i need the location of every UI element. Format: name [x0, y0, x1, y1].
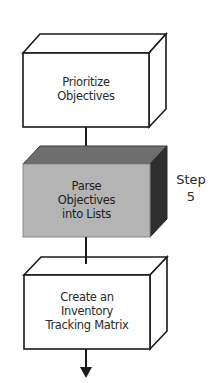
box-label-line: Objectives [23, 89, 149, 103]
box-label-prioritize-objectives: Prioritize Objectives [23, 75, 149, 103]
box-label-line: Inventory [18, 304, 156, 318]
arrow-down-icon [80, 349, 92, 378]
box-label-line: Create an [18, 290, 156, 304]
box-label-line: Tracking Matrix [18, 318, 156, 332]
box-label-line: into Lists [23, 207, 150, 221]
step-indicator: Step 5 [172, 171, 210, 205]
box-label-inventory-tracking-matrix: Create an Inventory Tracking Matrix [18, 290, 156, 332]
box-label-line: Objectives [23, 193, 150, 207]
box-label-parse-objectives: Parse Objectives into Lists [23, 179, 150, 221]
box-label-line: Prioritize [23, 75, 149, 89]
box-label-line: Parse [23, 179, 150, 193]
step-number: 5 [172, 188, 210, 205]
step-word: Step [172, 171, 210, 188]
